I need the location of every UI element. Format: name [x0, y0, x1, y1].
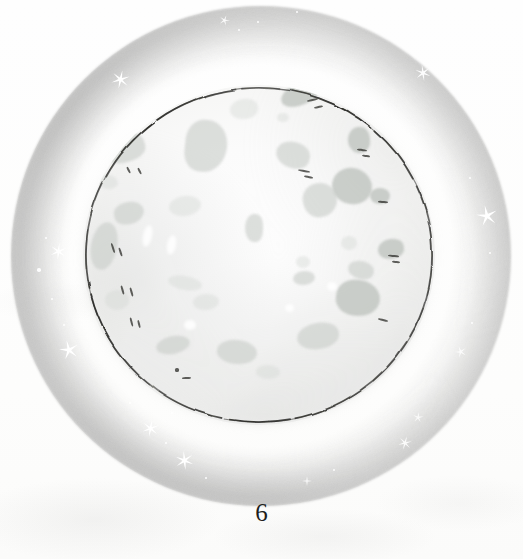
star-top-left: [109, 68, 132, 91]
star-left-lower: [57, 338, 81, 362]
star-bottom-mid: [174, 450, 195, 471]
speck-bot-f: [63, 324, 65, 326]
star-bottom-far: [302, 472, 312, 482]
star-left-upper: [49, 242, 68, 261]
star-right-lower: [452, 342, 467, 357]
speck-left-a: [37, 268, 41, 272]
speck-top-a: [238, 29, 241, 32]
speck-left-b: [45, 237, 48, 240]
star-top-right: [414, 64, 432, 82]
stars-layer: [0, 0, 523, 559]
speck-bot-d: [333, 469, 335, 471]
star-right-mid: [474, 203, 500, 229]
speck-right-c: [471, 322, 473, 324]
speck-bot-a: [129, 402, 132, 405]
page-number: 6: [0, 500, 523, 525]
speck-left-c: [51, 298, 53, 300]
speck-right-b: [489, 252, 491, 254]
speck-right-a: [469, 177, 471, 179]
speck-top-b: [257, 21, 259, 23]
star-bottom-right: [396, 434, 413, 451]
speck-bot-c: [205, 477, 207, 479]
star-right-low2: [412, 408, 424, 420]
book-page: 6: [0, 0, 523, 559]
speck-bot-b: [165, 442, 167, 444]
star-top-center: [218, 10, 232, 24]
speck-bot-e: [171, 412, 173, 414]
star-bottom-left: [140, 418, 160, 438]
speck-top-c: [296, 11, 298, 13]
